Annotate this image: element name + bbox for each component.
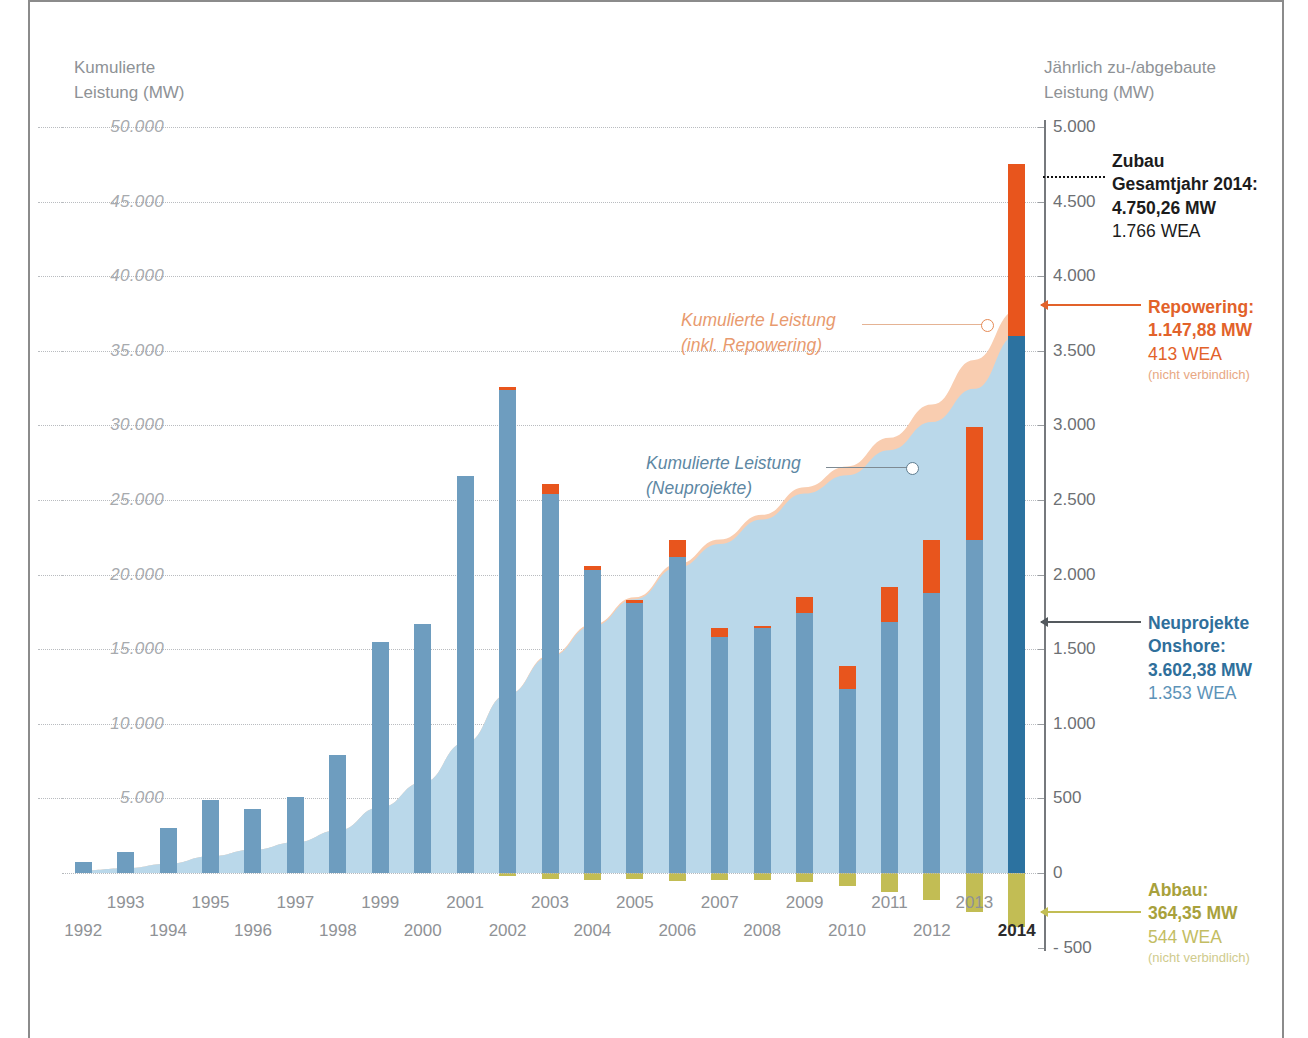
bar-segment-neuprojekte	[711, 637, 728, 873]
bar-segment-abbau	[711, 873, 728, 880]
bar-segment-neuprojekte	[499, 390, 516, 873]
annotation-repowering: Repowering: 1.147,88 MW 413 WEA (nicht v…	[1148, 296, 1254, 383]
bar-segment-neuprojekte	[669, 557, 686, 873]
left-tick-dash	[38, 649, 66, 650]
bar-1994[interactable]	[160, 122, 177, 940]
frame-right-border	[1282, 0, 1284, 1038]
bar-2011[interactable]	[881, 122, 898, 940]
year-label-1992: 1992	[64, 921, 102, 941]
left-tick-label: 40.000	[72, 266, 164, 286]
year-label-2010: 2010	[828, 921, 866, 941]
bar-2009[interactable]	[796, 122, 813, 940]
bar-segment-neuprojekte	[372, 642, 389, 873]
left-tick-label: 45.000	[72, 192, 164, 212]
left-tick-dash	[38, 575, 66, 576]
bar-segment-repowering	[542, 484, 559, 494]
bar-2007[interactable]	[711, 122, 728, 940]
year-label-1999: 1999	[361, 893, 399, 913]
bar-segment-abbau	[584, 873, 601, 880]
bar-segment-neuprojekte	[923, 593, 940, 873]
bar-segment-neuprojekte	[414, 624, 431, 873]
bar-1992[interactable]	[75, 122, 92, 940]
abbau-units: 544 WEA	[1148, 926, 1250, 949]
bar-segment-neuprojekte	[1008, 336, 1025, 873]
bar-segment-neuprojekte	[754, 628, 771, 873]
callout-repo-line2: (inkl. Repowering)	[681, 333, 836, 358]
right-tick-label: 3.500	[1053, 341, 1096, 361]
left-tick-label: 30.000	[72, 415, 164, 435]
bar-2004[interactable]	[584, 122, 601, 940]
bar-segment-repowering	[796, 597, 813, 613]
bar-2005[interactable]	[626, 122, 643, 940]
repowering-line1: Repowering:	[1148, 296, 1254, 319]
bar-segment-repowering	[754, 626, 771, 628]
bar-segment-neuprojekte	[117, 852, 134, 873]
right-axis-spine	[1044, 120, 1046, 951]
zero-baseline	[62, 873, 1038, 874]
bar-segment-repowering	[839, 666, 856, 690]
zubau-value: 4.750,26 MW	[1112, 197, 1258, 220]
bar-segment-repowering	[499, 387, 516, 389]
bar-2014[interactable]	[1008, 122, 1025, 940]
neuprojekte-line2: Onshore:	[1148, 635, 1252, 658]
callout-repo-line1: Kumulierte Leistung	[681, 308, 836, 333]
bar-2003[interactable]	[542, 122, 559, 940]
bar-segment-abbau	[754, 873, 771, 880]
neuprojekte-units: 1.353 WEA	[1148, 682, 1252, 705]
year-label-2012: 2012	[913, 921, 951, 941]
bar-2000[interactable]	[414, 122, 431, 940]
abbau-line1: Abbau:	[1148, 879, 1250, 902]
year-label-2013: 2013	[955, 893, 993, 913]
left-tick-label: 35.000	[72, 341, 164, 361]
repowering-units: 413 WEA	[1148, 343, 1254, 366]
bar-1999[interactable]	[372, 122, 389, 940]
bar-segment-neuprojekte	[584, 570, 601, 873]
annotation-neuprojekte: Neuprojekte Onshore: 3.602,38 MW 1.353 W…	[1148, 612, 1252, 705]
year-label-1994: 1994	[149, 921, 187, 941]
year-label-1997: 1997	[276, 893, 314, 913]
bar-2008[interactable]	[754, 122, 771, 940]
zubau-dotted-leader	[1043, 176, 1105, 178]
left-tick-dash	[38, 276, 66, 277]
bar-segment-abbau	[1008, 873, 1025, 927]
bar-1996[interactable]	[244, 122, 261, 940]
bar-segment-neuprojekte	[839, 689, 856, 873]
bar-segment-neuprojekte	[287, 797, 304, 873]
right-tick-label: 2.000	[1053, 565, 1096, 585]
bar-1995[interactable]	[202, 122, 219, 940]
bar-1998[interactable]	[329, 122, 346, 940]
year-label-1998: 1998	[319, 921, 357, 941]
year-label-2003: 2003	[531, 893, 569, 913]
right-tick-label: 500	[1053, 788, 1081, 808]
left-tick-dash	[38, 500, 66, 501]
bar-2001[interactable]	[457, 122, 474, 940]
bar-segment-repowering	[881, 587, 898, 623]
bar-segment-repowering	[584, 566, 601, 570]
left-tick-label: 25.000	[72, 490, 164, 510]
bar-2002[interactable]	[499, 122, 516, 940]
bar-segment-neuprojekte	[542, 494, 559, 873]
bar-segment-neuprojekte	[881, 622, 898, 873]
right-tick-label: 3.000	[1053, 415, 1096, 435]
bar-segment-neuprojekte	[796, 613, 813, 873]
callout-new-marker	[906, 462, 919, 475]
abbau-value: 364,35 MW	[1148, 902, 1250, 925]
bar-2013[interactable]	[966, 122, 983, 940]
bar-1993[interactable]	[117, 122, 134, 940]
callout-repo-leader	[862, 324, 984, 325]
chart-frame: Kumulierte Leistung (MW) Jährlich zu-/ab…	[0, 0, 1308, 1038]
bar-segment-repowering	[669, 540, 686, 556]
bar-2006[interactable]	[669, 122, 686, 940]
callout-cumulative-neuprojekte: Kumulierte Leistung (Neuprojekte)	[646, 451, 801, 502]
left-axis-title: Kumulierte Leistung (MW)	[74, 56, 185, 105]
bar-segment-neuprojekte	[244, 809, 261, 873]
bar-2010[interactable]	[839, 122, 856, 940]
year-label-2001: 2001	[446, 893, 484, 913]
left-tick-dash	[38, 798, 66, 799]
left-tick-label: 50.000	[72, 117, 164, 137]
abbau-note: (nicht verbindlich)	[1148, 949, 1250, 966]
left-tick-dash	[38, 724, 66, 725]
bar-2012[interactable]	[923, 122, 940, 940]
bar-1997[interactable]	[287, 122, 304, 940]
frame-left-border	[28, 0, 30, 1038]
